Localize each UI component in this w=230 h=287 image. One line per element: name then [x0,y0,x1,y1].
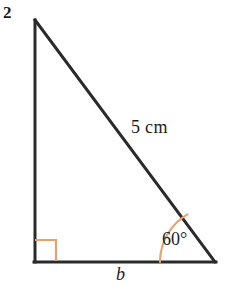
triangle-diagram [0,0,230,287]
hypotenuse-length-label: 5 cm [131,118,168,136]
base-length-label: b [116,265,125,283]
problem-number: 2 [3,4,12,21]
angle-measure-label: 60° [162,230,187,248]
right-angle-marker-icon [35,240,56,261]
triangle-hypotenuse [35,20,215,262]
geometry-figure: 2 5 cm 60° b [0,0,230,287]
